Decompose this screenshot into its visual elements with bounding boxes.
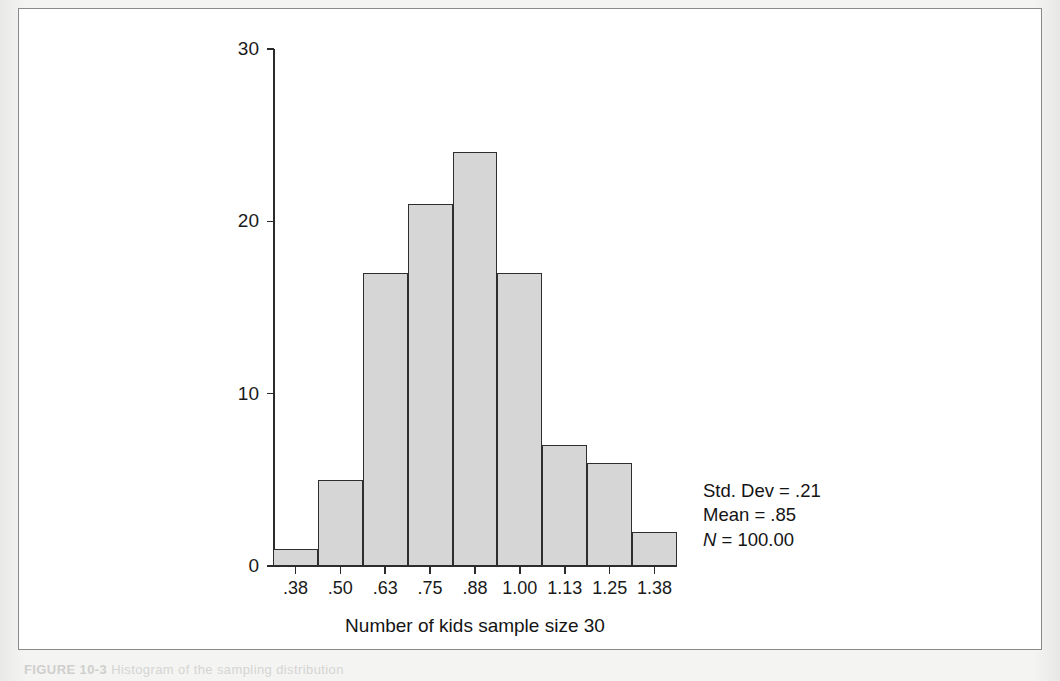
y-tick-30 — [267, 48, 274, 50]
histogram-bar — [408, 204, 453, 566]
x-tick-1.13 — [564, 566, 566, 574]
y-tick-label-0: 0 — [197, 556, 259, 575]
x-tick-.63 — [384, 566, 386, 574]
histogram-bar — [453, 152, 498, 566]
std-dev-label: Std. Dev = .21 — [703, 479, 821, 503]
y-tick-label-10: 10 — [197, 384, 259, 403]
mean-label: Mean = .85 — [703, 503, 821, 527]
x-tick-label-1.38: 1.38 — [615, 579, 695, 599]
figure-caption: FIGURE 10-3 Histogram of the sampling di… — [24, 662, 344, 681]
y-tick-20 — [267, 221, 274, 223]
histogram-bar — [497, 273, 542, 566]
x-tick-1.00 — [519, 566, 521, 574]
figure-frame: 0102030 .38.50.63.75.881.001.131.251.38 … — [18, 8, 1042, 650]
histogram-bar — [632, 532, 677, 566]
x-axis-title: Number of kids sample size 30 — [273, 615, 677, 637]
histogram-chart: 0102030 .38.50.63.75.881.001.131.251.38 … — [19, 9, 1043, 651]
n-value: = 100.00 — [716, 529, 794, 550]
n-symbol: N — [703, 529, 716, 550]
figure-caption-text: Histogram of the sampling distribution — [111, 662, 344, 677]
histogram-bar — [318, 480, 363, 566]
histogram-bar — [542, 445, 587, 566]
statistics-annotation: Std. Dev = .21 Mean = .85 N = 100.00 — [703, 479, 821, 552]
histogram-bar — [273, 549, 318, 566]
x-tick-.88 — [474, 566, 476, 574]
figure-caption-label: FIGURE 10-3 — [24, 662, 107, 677]
x-tick-.75 — [429, 566, 431, 574]
histogram-bar — [587, 463, 632, 566]
y-tick-label-20: 20 — [197, 211, 259, 230]
y-axis-line — [273, 49, 275, 566]
x-tick-1.38 — [654, 566, 656, 574]
histogram-bar — [363, 273, 408, 566]
y-tick-label-30: 30 — [197, 39, 259, 58]
x-tick-.50 — [340, 566, 342, 574]
y-tick-10 — [267, 393, 274, 395]
x-tick-.38 — [295, 566, 297, 574]
x-tick-1.25 — [609, 566, 611, 574]
n-label: N = 100.00 — [703, 528, 821, 552]
